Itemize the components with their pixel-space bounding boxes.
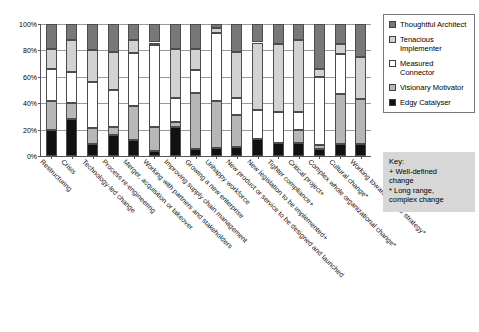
bar-segment[interactable]: [231, 115, 242, 147]
bar-segment[interactable]: [66, 40, 77, 72]
bar-segment[interactable]: [46, 49, 57, 69]
bar-stack[interactable]: [66, 24, 77, 156]
stacked-bar-chart-figure: 0%20%40%60%80%100% RestructuringCrisisTe…: [0, 0, 479, 332]
bar-segment[interactable]: [231, 98, 242, 115]
bar-segment[interactable]: [335, 24, 346, 44]
bar-segment[interactable]: [190, 70, 201, 92]
bar-stack[interactable]: [293, 24, 304, 156]
bar-segment[interactable]: [170, 24, 181, 49]
bar-segment[interactable]: [231, 24, 242, 52]
bar-stack[interactable]: [252, 24, 263, 156]
bar-segment[interactable]: [149, 24, 160, 42]
bar-segment[interactable]: [66, 119, 77, 156]
bar-segment[interactable]: [87, 24, 98, 50]
bar-segment[interactable]: [128, 24, 139, 40]
bar-segment[interactable]: [170, 98, 181, 122]
bar-segment[interactable]: [211, 148, 222, 156]
bar-segment[interactable]: [149, 43, 160, 46]
legend-item[interactable]: Edgy Catalyser: [389, 98, 470, 107]
bar-segment[interactable]: [355, 24, 366, 57]
bar-segment[interactable]: [170, 127, 181, 156]
legend-item[interactable]: Thoughtful Architect: [389, 20, 470, 29]
bar-segment[interactable]: [46, 69, 57, 101]
bar-stack[interactable]: [87, 24, 98, 156]
bar-stack[interactable]: [211, 24, 222, 156]
bar-segment[interactable]: [252, 139, 263, 156]
bar-segment[interactable]: [66, 24, 77, 40]
bar-segment[interactable]: [335, 54, 346, 94]
bar-segment[interactable]: [231, 147, 242, 156]
bar-segment[interactable]: [108, 52, 119, 90]
bar-segment[interactable]: [293, 112, 304, 129]
bar-stack[interactable]: [149, 24, 160, 156]
bar-stack[interactable]: [314, 24, 325, 156]
bar-segment[interactable]: [87, 128, 98, 144]
bar-segment[interactable]: [128, 106, 139, 140]
bar-segment[interactable]: [190, 149, 201, 156]
legend-item[interactable]: Measured Connector: [389, 59, 470, 77]
bar-segment[interactable]: [211, 28, 222, 33]
key-line-2: change: [389, 176, 469, 186]
bar-segment[interactable]: [211, 33, 222, 100]
bar-segment[interactable]: [273, 112, 284, 142]
bar-segment[interactable]: [231, 52, 242, 98]
bar-segment[interactable]: [46, 24, 57, 49]
bar-stack[interactable]: [231, 24, 242, 156]
bar-segment[interactable]: [355, 144, 366, 156]
bar-segment[interactable]: [293, 130, 304, 143]
bar-segment[interactable]: [293, 40, 304, 113]
bar-segment[interactable]: [273, 24, 284, 44]
bar-stack[interactable]: [170, 24, 181, 156]
bar-stack[interactable]: [355, 24, 366, 156]
bar-stack[interactable]: [108, 24, 119, 156]
bar-segment[interactable]: [46, 130, 57, 156]
bar-segment[interactable]: [108, 90, 119, 127]
bar-segment[interactable]: [252, 24, 263, 42]
bar-segment[interactable]: [190, 24, 201, 49]
bar-segment[interactable]: [314, 77, 325, 146]
bar-segment[interactable]: [149, 127, 160, 151]
legend-item[interactable]: Tenacious Implementer: [389, 35, 470, 53]
legend-item[interactable]: Visionary Motivator: [389, 83, 470, 92]
bar-stack[interactable]: [46, 24, 57, 156]
bar-segment[interactable]: [108, 135, 119, 156]
bar-stack[interactable]: [128, 24, 139, 156]
bar-stack[interactable]: [273, 24, 284, 156]
bar-segment[interactable]: [252, 110, 263, 139]
bar-segment[interactable]: [87, 82, 98, 128]
bar-segment[interactable]: [128, 53, 139, 106]
bar-segment[interactable]: [314, 149, 325, 156]
bar-segment[interactable]: [108, 24, 119, 52]
bar-segment[interactable]: [66, 103, 77, 119]
bar-segment[interactable]: [211, 24, 222, 28]
bar-segment[interactable]: [335, 94, 346, 144]
bar-segment[interactable]: [170, 49, 181, 98]
bar-segment[interactable]: [335, 44, 346, 55]
bar-segment[interactable]: [355, 57, 366, 99]
bar-segment[interactable]: [293, 24, 304, 40]
bar-segment[interactable]: [335, 144, 346, 156]
bar-segment[interactable]: [293, 143, 304, 156]
bar-segment[interactable]: [87, 144, 98, 156]
bar-segment[interactable]: [190, 93, 201, 150]
bar-segment[interactable]: [87, 50, 98, 82]
bar-segment[interactable]: [149, 45, 160, 127]
bar-segment[interactable]: [190, 49, 201, 70]
bar-segment[interactable]: [108, 127, 119, 135]
bar-segment[interactable]: [170, 122, 181, 127]
bar-stack[interactable]: [335, 24, 346, 156]
bar-segment[interactable]: [252, 43, 263, 110]
bar-segment[interactable]: [211, 101, 222, 149]
bar-segment[interactable]: [128, 140, 139, 156]
bar-segment[interactable]: [273, 143, 284, 156]
bar-segment[interactable]: [273, 44, 284, 113]
y-axis-tick-label: 60%: [23, 73, 37, 80]
bar-segment[interactable]: [314, 24, 325, 69]
bar-stack[interactable]: [190, 24, 201, 156]
bar-segment[interactable]: [314, 145, 325, 149]
bar-segment[interactable]: [66, 72, 77, 104]
bar-segment[interactable]: [314, 69, 325, 77]
bar-segment[interactable]: [355, 99, 366, 144]
bar-segment[interactable]: [46, 101, 57, 130]
bar-segment[interactable]: [128, 40, 139, 53]
